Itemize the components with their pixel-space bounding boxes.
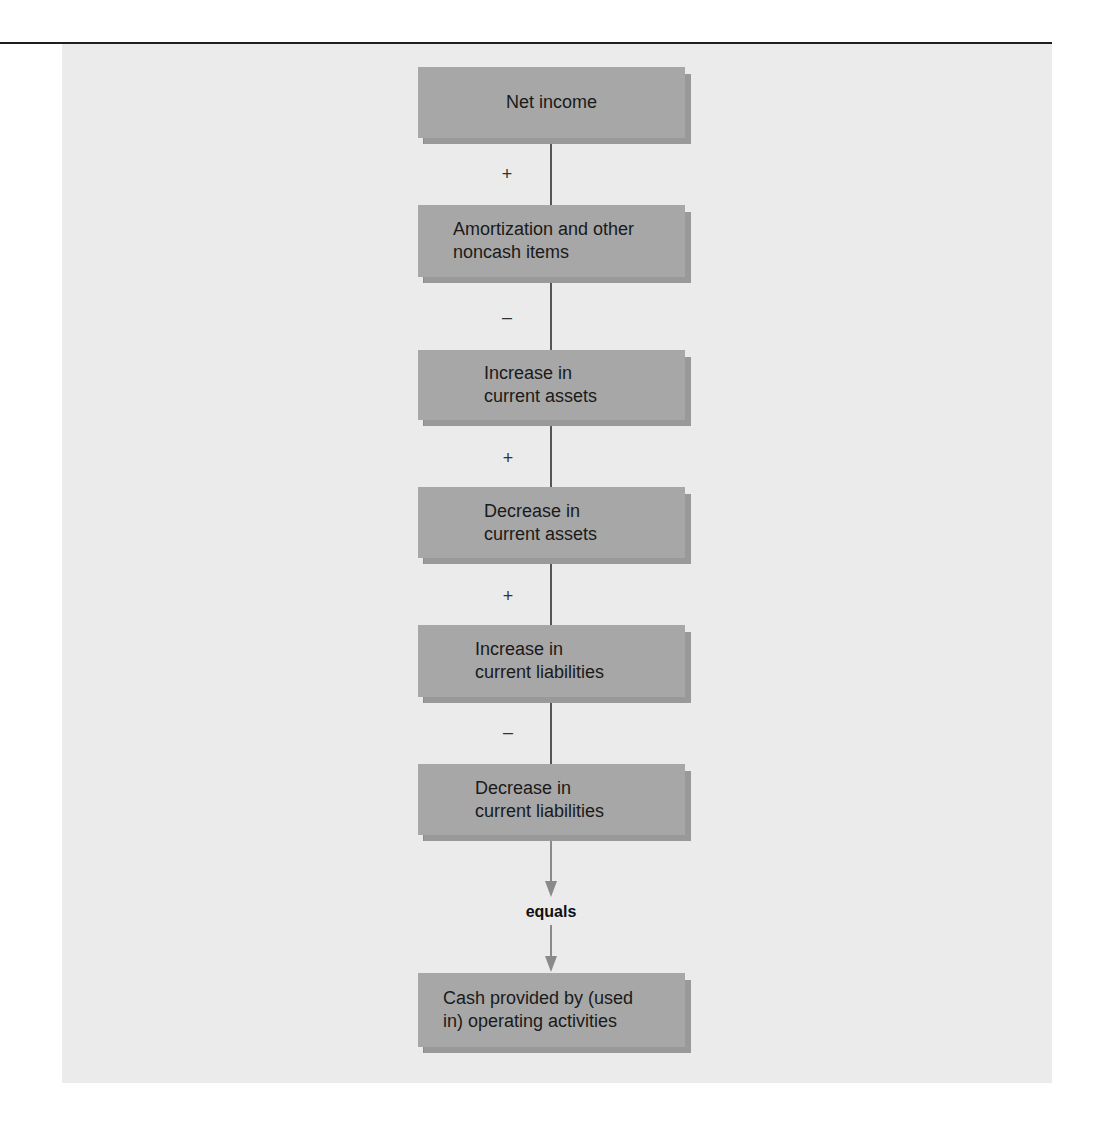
plus-operator: + [498, 449, 518, 467]
plus-operator: + [497, 165, 517, 183]
plus-operator: + [498, 587, 518, 605]
node-label: Increase in current assets [484, 362, 597, 408]
node-label: Net income [506, 91, 597, 114]
down-arrow-icon [540, 925, 562, 972]
node-increase-current-liabilities: Increase in current liabilities [418, 625, 685, 697]
node-label: Increase in current liabilities [475, 638, 604, 684]
node-cash-operating: Cash provided by (used in) operating act… [418, 973, 685, 1047]
node-decrease-current-liabilities: Decrease in current liabilities [418, 764, 685, 835]
equals-label: equals [501, 903, 601, 921]
down-arrow-icon [540, 841, 562, 897]
node-label: Decrease in current liabilities [475, 777, 604, 823]
node-amortization: Amortization and other noncash items [418, 205, 685, 277]
minus-operator: – [498, 723, 518, 741]
node-decrease-current-assets: Decrease in current assets [418, 487, 685, 558]
node-net-income: Net income [418, 67, 685, 138]
node-label: Amortization and other noncash items [453, 218, 634, 264]
node-increase-current-assets: Increase in current assets [418, 350, 685, 420]
node-label: Decrease in current assets [484, 500, 597, 546]
node-label: Cash provided by (used in) operating act… [443, 987, 633, 1033]
minus-operator: – [497, 308, 517, 326]
